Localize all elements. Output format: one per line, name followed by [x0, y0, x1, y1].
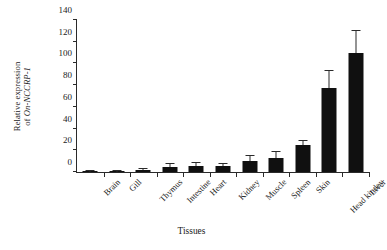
- x-axis-tick-mark: [210, 172, 211, 177]
- y-axis-tick-label: 100: [46, 48, 77, 58]
- y-axis-tick-label: 20: [46, 135, 77, 145]
- error-bar-cap: [86, 170, 95, 171]
- x-axis-tick-mark: [236, 172, 237, 177]
- error-bar-line: [249, 156, 250, 161]
- y-axis-tick-label: 60: [46, 92, 77, 102]
- bar-group: [130, 20, 157, 172]
- bar: [269, 158, 284, 172]
- error-bar-cap: [192, 162, 201, 163]
- bar: [215, 166, 230, 173]
- x-axis-tick-label: Gill: [127, 177, 144, 194]
- error-bar-cap: [298, 140, 307, 141]
- bar-group: [157, 20, 184, 172]
- error-bar-cap: [245, 155, 254, 156]
- error-bar-line: [302, 141, 303, 145]
- bar-group: [77, 20, 104, 172]
- y-axis-tick-label: 0: [46, 157, 77, 167]
- x-axis-tick-label: Heart: [208, 177, 229, 198]
- error-bar-cap: [112, 170, 121, 171]
- x-axis-tick-mark: [263, 172, 264, 177]
- x-axis-tick-mark: [316, 172, 317, 177]
- x-axis-tick-label: Brain: [102, 177, 123, 198]
- bar: [295, 145, 310, 172]
- error-bar-line: [143, 169, 144, 170]
- y-axis-tick-label: 80: [46, 70, 77, 80]
- x-axis-tick-mark: [183, 172, 184, 177]
- y-axis-title-gene-name: On-NCCRP-1: [23, 67, 33, 116]
- error-bar-line: [222, 164, 223, 166]
- bar-group: [316, 20, 343, 172]
- y-axis-tick-label: 120: [46, 27, 77, 37]
- x-axis-tick-mark: [342, 172, 343, 177]
- bar: [136, 170, 151, 172]
- plot-area: 020406080100120140 BrainGillThymusIntest…: [76, 20, 369, 173]
- error-bar-cap: [351, 30, 360, 31]
- bar: [189, 166, 204, 173]
- error-bar-line: [276, 152, 277, 159]
- bar-group: [289, 20, 316, 172]
- error-bar-cap: [139, 168, 148, 169]
- x-axis-tick-mark: [130, 172, 131, 177]
- y-axis-title-line1: Relative expression: [13, 61, 23, 130]
- y-axis-title-line2-prefix: of: [23, 116, 33, 126]
- x-axis-tick-mark: [157, 172, 158, 177]
- bar: [162, 167, 177, 172]
- x-axis-tick-label: Muscle: [263, 177, 288, 202]
- x-axis-title: Tissues: [0, 226, 383, 236]
- bar: [322, 88, 337, 172]
- error-bar-line: [329, 71, 330, 88]
- x-axis-tick-mark: [289, 172, 290, 177]
- error-bar-line: [355, 31, 356, 53]
- x-axis-tick-label: Thymus: [158, 177, 185, 204]
- bar-group: [104, 20, 131, 172]
- bar-group: [263, 20, 290, 172]
- y-axis-tick-label: 140: [46, 5, 77, 15]
- error-bar-cap: [325, 70, 334, 71]
- error-bar-cap: [218, 163, 227, 164]
- error-bar-cap: [272, 151, 281, 152]
- x-axis-tick-label: Spleen: [289, 177, 313, 201]
- bar: [242, 161, 257, 172]
- bar-group: [183, 20, 210, 172]
- error-bar-line: [196, 163, 197, 165]
- x-axis-tick-mark: [104, 172, 105, 177]
- y-axis-title: Relative expression of On-NCCRP-1: [8, 18, 38, 174]
- x-axis-tick-label: Skin: [313, 177, 331, 195]
- bar-group: [342, 20, 369, 172]
- error-bar-line: [169, 164, 170, 167]
- error-bar-cap: [165, 163, 174, 164]
- bar: [348, 53, 363, 172]
- x-axis-tick-mark: [369, 172, 370, 177]
- bar-group: [236, 20, 263, 172]
- bar-group: [210, 20, 237, 172]
- y-axis-tick-label: 40: [46, 114, 77, 124]
- x-axis-tick-label: Kidney: [236, 177, 261, 202]
